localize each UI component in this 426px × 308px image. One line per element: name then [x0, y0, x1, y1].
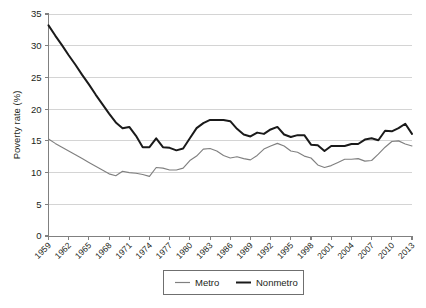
x-axis-tick-label: 2004	[335, 240, 356, 261]
x-axis-tick-labels-group: 1959196219651968197119741977198019831986…	[32, 236, 416, 261]
y-axis-title: Poverty rate (%)	[11, 91, 22, 160]
x-axis-tick-label: 2010	[376, 240, 397, 261]
x-axis-tick-label: 1965	[73, 240, 94, 261]
y-axis-tick-label: 25	[31, 72, 42, 83]
x-axis-tick-label: 1980	[174, 240, 195, 261]
x-axis-tick-label: 1977	[154, 240, 175, 261]
legend-label-nonmetro: Nonmetro	[256, 277, 298, 288]
y-axis-tick-label: 5	[36, 199, 41, 210]
x-axis-tick-label: 2001	[315, 240, 336, 261]
chart-figure: 05101520253035 1959196219651968197119741…	[0, 0, 426, 308]
x-axis-tick-label: 1968	[93, 240, 114, 261]
gridlines-group	[49, 14, 413, 204]
line-chart: 05101520253035 1959196219651968197119741…	[0, 0, 426, 308]
x-axis-tick-label: 1974	[133, 240, 154, 261]
y-axis-tick-label: 35	[31, 8, 42, 19]
x-axis-tick-label: 2007	[356, 240, 377, 261]
series-line-nonmetro	[49, 25, 413, 151]
x-axis-tick-label: 1959	[32, 240, 53, 261]
x-axis-tick-label: 1983	[194, 240, 215, 261]
x-axis-tick-label: 1989	[234, 240, 255, 261]
y-axis-ticks-group: 05101520253035	[31, 8, 49, 241]
x-axis-tick-label: 2013	[396, 240, 417, 261]
x-axis-tick-label: 1995	[275, 240, 296, 261]
x-axis-tick-label: 1971	[113, 240, 134, 261]
chart-legend: Metro Nonmetro	[164, 271, 304, 295]
x-axis-tick-label: 1962	[53, 240, 74, 261]
x-axis-tick-label: 1998	[295, 240, 316, 261]
y-axis-tick-label: 20	[31, 104, 42, 115]
y-axis-tick-label: 30	[31, 40, 42, 51]
y-axis-tick-label: 15	[31, 135, 42, 146]
x-axis-tick-label: 1992	[255, 240, 276, 261]
legend-label-metro: Metro	[195, 277, 219, 288]
x-axis-tick-label: 1986	[214, 240, 235, 261]
y-axis-tick-label: 10	[31, 167, 42, 178]
y-axis-tick-label: 0	[36, 230, 41, 241]
